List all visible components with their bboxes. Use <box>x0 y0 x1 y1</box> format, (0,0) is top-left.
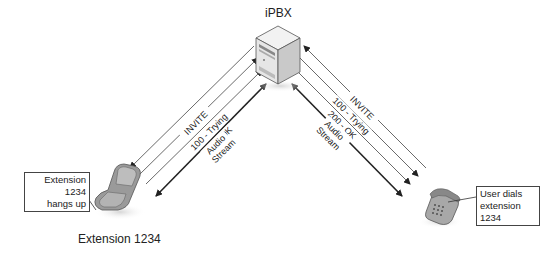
right-labels: INVITE 100 - Trying 200 - OK Audio Strea… <box>313 90 379 154</box>
server-tower-icon <box>254 26 306 92</box>
server-label: iPBX <box>265 6 292 20</box>
left-callout-line-2: hangs up <box>28 198 86 210</box>
cell-phone-icon <box>94 164 146 220</box>
right-callout-line-2: extension 1234 <box>480 200 536 224</box>
left-ok-arrow <box>146 70 262 184</box>
right-callout: User dials extension 1234 <box>476 186 540 226</box>
right-callout-line-1: User dials <box>480 188 536 200</box>
left-labels: INVITE 100 - Trying 200 - OK Audio Strea… <box>178 105 238 171</box>
left-device-label: Extension 1234 <box>78 232 161 246</box>
right-ok-arrow <box>296 70 410 184</box>
left-callout: Extension 1234 hangs up <box>24 172 90 212</box>
sip-call-diagram: INVITE 100 - Trying 200 - OK Audio Strea… <box>0 0 558 256</box>
desk-phone-icon <box>418 189 462 228</box>
left-callout-line-1: Extension 1234 <box>28 174 86 198</box>
